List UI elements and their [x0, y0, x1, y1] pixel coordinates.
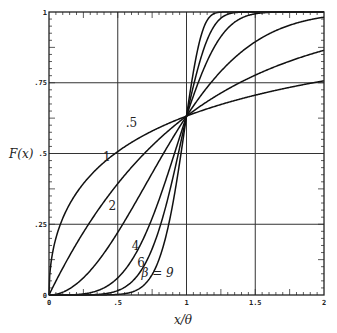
curve-label: 4 — [132, 239, 140, 253]
x-tick-label: 1 — [184, 299, 188, 307]
y-tick-label: .25 — [34, 221, 47, 229]
y-axis-title: F(x) — [8, 147, 34, 161]
x-tick-label: 1.5 — [249, 299, 262, 307]
y-tick-label: .75 — [34, 79, 47, 87]
curve-label: 1 — [103, 150, 111, 164]
x-tick-label: .5 — [114, 299, 122, 307]
y-tick-label: 1 — [43, 9, 47, 17]
x-axis-title: x/θ — [174, 313, 193, 327]
y-tick-label: 0 — [43, 292, 47, 300]
curve-label: .5 — [126, 116, 137, 130]
curve-label: β = 9 — [140, 266, 174, 280]
grid-lines — [49, 12, 324, 295]
weibull-cdf-chart: 0.511.520.25.5.751 .51246β = 9 F(x) x/θ — [0, 0, 337, 333]
x-tick-label: 0 — [47, 299, 51, 307]
x-tick-label: 2 — [322, 299, 326, 307]
curve-label: 2 — [108, 199, 116, 213]
y-tick-label: .5 — [39, 150, 47, 158]
